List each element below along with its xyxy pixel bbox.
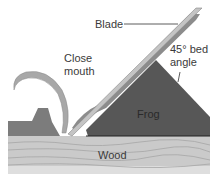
plane-sole-front — [8, 108, 60, 136]
label-close-mouth-2: mouth — [64, 65, 95, 77]
label-close-mouth-1: Close — [64, 52, 92, 64]
bed-angle-leader-line — [178, 72, 180, 82]
label-bed-angle-1: 45° bed — [170, 43, 208, 55]
hand-plane-diagram: Blade Close mouth 45° bed angle Frog Woo… — [0, 0, 215, 179]
label-wood: Wood — [98, 149, 127, 161]
label-bed-angle-2: angle — [170, 56, 197, 68]
label-blade: Blade — [95, 18, 123, 30]
label-frog: Frog — [137, 108, 160, 120]
